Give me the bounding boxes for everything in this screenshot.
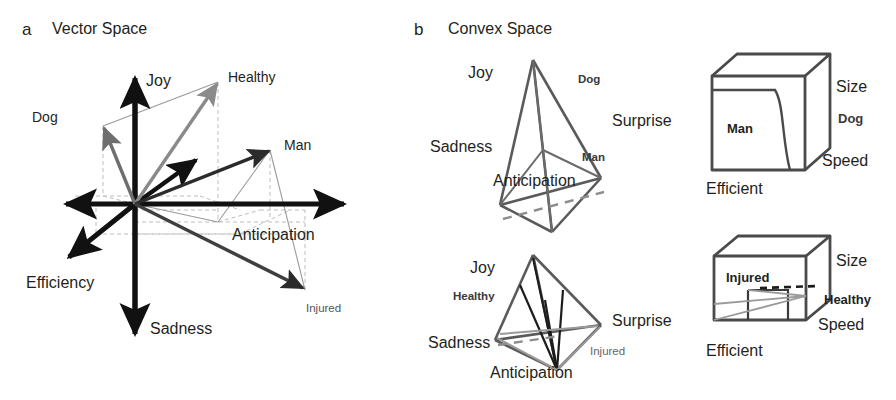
label-anticipation-tetra-top: Anticipation xyxy=(493,172,576,189)
panel-b-graphic: Joy Surprise Sadness Anticipation Dog Ma… xyxy=(0,0,896,400)
label-injured-tetra-bottom: Injured xyxy=(590,345,625,357)
label-man-tetra-top: Man xyxy=(582,151,605,163)
label-speed-cube-bottom: Speed xyxy=(818,316,864,333)
label-dog-tetra-top: Dog xyxy=(578,73,600,85)
label-man-cube-top: Man xyxy=(727,121,753,136)
label-surprise-tetra-bottom: Surprise xyxy=(612,312,672,329)
label-anticipation-tetra-bottom: Anticipation xyxy=(490,364,573,381)
label-sadness-tetra-bottom: Sadness xyxy=(428,334,490,351)
label-size-cube-top: Size xyxy=(836,78,867,95)
label-healthy-tetra-bottom: Healthy xyxy=(453,290,495,302)
label-joy-tetra-top: Joy xyxy=(468,64,493,81)
label-healthy-cube-bottom: Healthy xyxy=(824,292,872,307)
label-speed-cube-top: Speed xyxy=(822,152,868,169)
label-efficient-cube-top: Efficient xyxy=(706,180,763,197)
label-surprise-tetra-top: Surprise xyxy=(612,112,672,129)
label-efficient-cube-bottom: Efficient xyxy=(706,342,763,359)
label-size-cube-bottom: Size xyxy=(836,252,867,269)
cube-bottom-dashed-line xyxy=(760,286,818,288)
label-joy-tetra-bottom: Joy xyxy=(470,259,495,276)
cube-bottom: Size Healthy Speed Efficient Injured xyxy=(706,236,872,359)
label-dog-cube-top: Dog xyxy=(838,111,863,126)
label-sadness-tetra-top: Sadness xyxy=(430,138,492,155)
tetrahedron-bottom: Joy Surprise Sadness Anticipation Health… xyxy=(428,255,672,381)
label-injured-cube-bottom: Injured xyxy=(726,270,769,285)
cube-top: Size Dog Speed Efficient Man xyxy=(706,54,868,197)
figure-root: a Vector Space xyxy=(0,0,896,400)
tetrahedron-top: Joy Surprise Sadness Anticipation Dog Ma… xyxy=(430,60,672,232)
